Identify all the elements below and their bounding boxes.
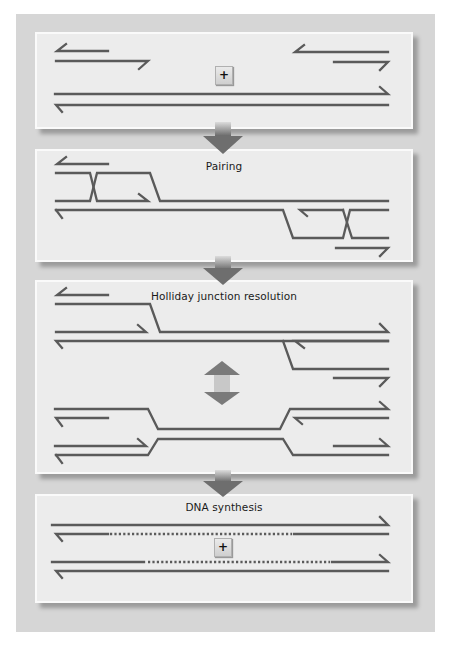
dna-strand-diagram [0,0,452,646]
down-arrow-icon [203,256,243,285]
double-arrow-icon [204,361,240,405]
down-arrow-icon [203,470,243,497]
down-arrow-icon [203,122,243,154]
